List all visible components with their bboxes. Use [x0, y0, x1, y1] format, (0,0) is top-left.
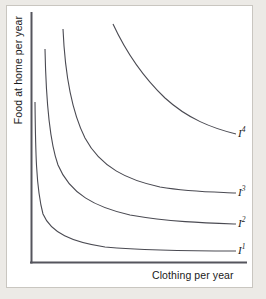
figure-container: Food at home per year Clothing per year … — [0, 0, 266, 299]
curve-label-I4: I4 — [238, 127, 245, 139]
x-axis-label: Clothing per year — [152, 269, 234, 281]
curve-label-I3: I3 — [238, 186, 245, 198]
curve-I4 — [113, 24, 236, 134]
indifference-curve-plot — [0, 0, 266, 299]
curve-label-I2: I2 — [238, 217, 245, 229]
curve-I3 — [63, 29, 236, 193]
curve-label-I1: I1 — [238, 244, 245, 256]
curve-I2 — [45, 49, 236, 224]
y-axis-label: Food at home per year — [12, 14, 24, 126]
